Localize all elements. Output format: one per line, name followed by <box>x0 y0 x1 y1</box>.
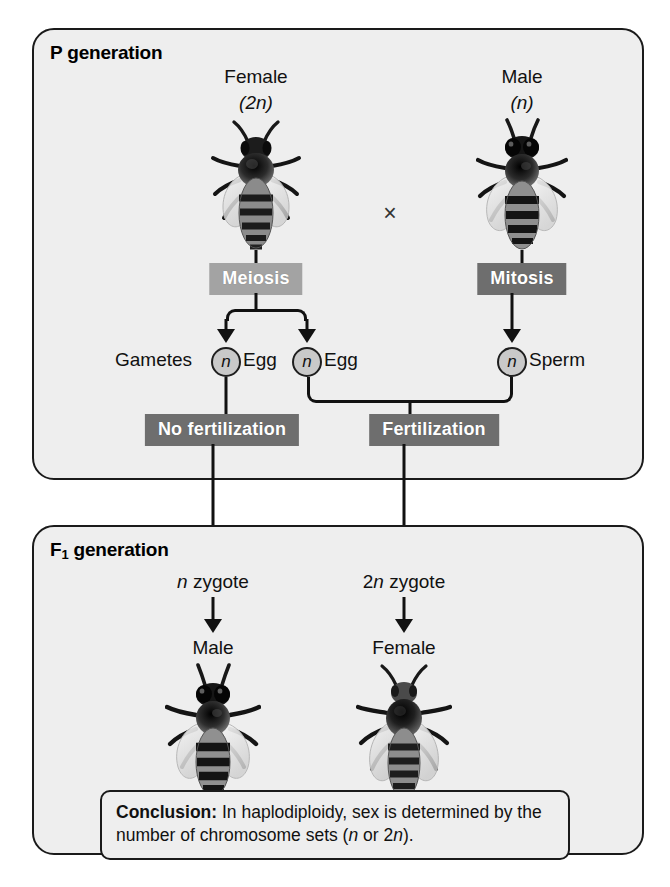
f1-female-bee-illustration <box>356 663 452 803</box>
egg2-gamete-circle: n <box>292 347 322 377</box>
egg1-label: Egg <box>243 349 277 371</box>
f1-generation-title-text: F <box>50 539 61 560</box>
male-bee-illustration <box>476 118 568 256</box>
f1-male-bee-illustration <box>165 663 261 803</box>
gametes-label: Gametes <box>115 349 192 371</box>
meiosis-stem-line <box>255 293 258 309</box>
sperm-label: Sperm <box>529 349 585 371</box>
fertilization-stem-line <box>409 401 412 415</box>
no-fertilization-box: No fertilization <box>145 414 299 446</box>
egg1-gamete-circle: n <box>211 347 241 377</box>
2n-zygote-label: 2n zygote <box>363 571 445 593</box>
male-to-mitosis-line <box>521 250 524 264</box>
conclusion-box: Conclusion: In haplodiploidy, sex is det… <box>100 790 570 860</box>
female-parent-ploidy: (2n) <box>239 92 273 114</box>
egg2-label: Egg <box>324 349 358 371</box>
f1-generation-title-suffix: generation <box>68 539 168 560</box>
male-parent-ploidy: (n) <box>510 92 533 114</box>
egg2-arrowhead <box>298 329 316 343</box>
fertilization-box: Fertilization <box>369 414 499 446</box>
f1-generation-title: F1 generation <box>50 539 169 562</box>
f1-male-label: Male <box>192 637 233 659</box>
sperm-gamete-circle: n <box>497 347 527 377</box>
p-generation-title-suffix: generation <box>62 42 162 63</box>
2n-zygote-to-female-line <box>403 597 406 621</box>
f1-female-label: Female <box>372 637 435 659</box>
p-generation-title-text: P <box>50 42 62 63</box>
mitosis-box: Mitosis <box>477 263 566 295</box>
n-zygote-label: n zygote <box>177 571 249 593</box>
conclusion-heading: Conclusion: <box>116 802 217 822</box>
meiosis-box: Meiosis <box>209 263 302 295</box>
sperm-arrowhead <box>503 329 521 343</box>
male-parent-label: Male <box>501 66 542 88</box>
fertilization-join-bracket <box>307 377 513 403</box>
haplodiploidy-diagram: P generation Female (2n) Male (n) × <box>0 0 670 887</box>
female-parent-label: Female <box>224 66 287 88</box>
cross-symbol: × <box>383 200 396 227</box>
2n-zygote-arrowhead <box>395 619 413 633</box>
egg1-arrowhead <box>217 329 235 343</box>
mitosis-to-sperm-line <box>511 293 514 329</box>
female-bee-illustration <box>210 118 302 256</box>
p-generation-title: P generation <box>50 42 162 64</box>
female-to-meiosis-line <box>255 250 258 264</box>
meiosis-split-bracket <box>226 309 307 321</box>
n-zygote-arrowhead <box>204 619 222 633</box>
n-zygote-to-male-line <box>212 597 215 621</box>
egg1-to-nofert-line <box>225 377 228 415</box>
